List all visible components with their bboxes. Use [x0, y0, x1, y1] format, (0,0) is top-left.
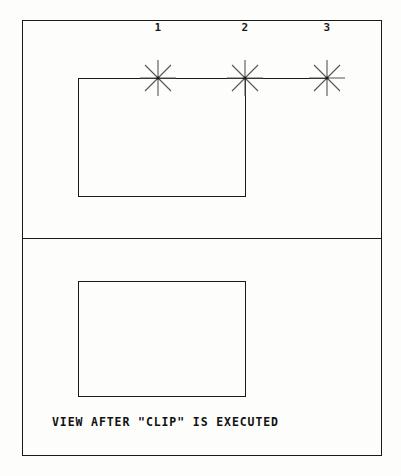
- pick-point-label-2: 2: [225, 22, 265, 34]
- pick-point-label-3: 3: [307, 22, 347, 34]
- figure-canvas: 1 2: [0, 0, 401, 476]
- pick-point-marker-3: 3: [307, 58, 347, 98]
- figure-caption: VIEW AFTER "CLIP" IS EXECUTED: [52, 415, 279, 429]
- asterisk-icon: [307, 58, 347, 98]
- pick-point-label-1: 1: [138, 22, 178, 34]
- pick-point-marker-2: 2: [225, 58, 265, 98]
- object-rectangle-after: [78, 281, 246, 397]
- asterisk-icon: [138, 58, 178, 98]
- panel-before-clip: 1 2: [0, 0, 401, 238]
- asterisk-icon: [225, 58, 265, 98]
- pick-point-marker-1: 1: [138, 58, 178, 98]
